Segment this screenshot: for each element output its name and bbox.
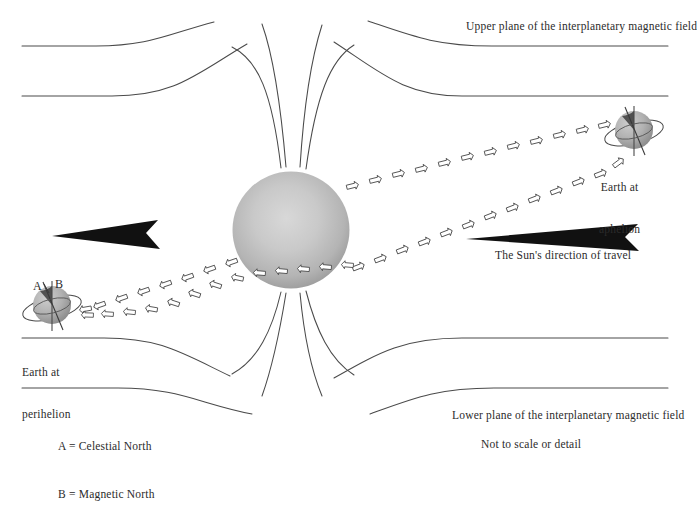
axis-label-a: A [33, 279, 42, 294]
direction-dart-left [52, 220, 160, 249]
earth-aphelion-label: Earth at aphelion [599, 152, 640, 264]
sun-sphere [233, 172, 350, 289]
earth-aphelion-label-line1: Earth at [599, 180, 640, 194]
magnetic-field-lines-lower [22, 291, 668, 414]
lower-plane-label: Lower plane of the interplanetary magnet… [452, 409, 684, 421]
earth-aphelion-label-line2: aphelion [599, 222, 640, 236]
earth-perihelion-label-line1: Earth at [22, 365, 71, 379]
upper-plane-label: Upper plane of the interplanetary magnet… [466, 20, 697, 32]
not-to-scale-label: Not to scale or detail [481, 438, 581, 450]
legend: A = Celestial North B = Magnetic North [58, 406, 155, 505]
legend-item-celestial-north: A = Celestial North [58, 438, 155, 454]
solar-wind-trail-aphelion [346, 120, 612, 192]
earth-aphelion [602, 106, 666, 156]
axis-label-b: B [55, 277, 63, 292]
magnetic-field-lines-upper [22, 21, 668, 169]
legend-item-magnetic-north: B = Magnetic North [58, 486, 155, 502]
earth-perihelion [20, 281, 84, 331]
